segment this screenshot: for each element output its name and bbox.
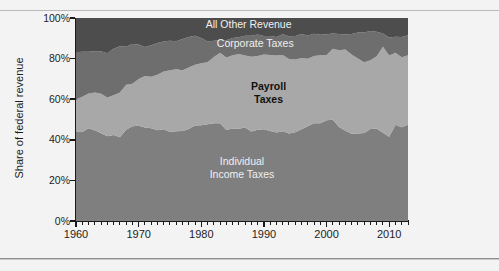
x-tick-major-1990 — [263, 221, 264, 227]
x-tick-minor-1997 — [307, 221, 308, 225]
x-tick-minor-2005 — [357, 221, 358, 225]
y-tick-label-80: 80% — [26, 53, 70, 64]
x-tick-minor-1979 — [195, 221, 196, 225]
x-tick-label-1960: 1960 — [64, 229, 88, 240]
x-tick-minor-2004 — [351, 221, 352, 225]
x-tick-minor-2012 — [401, 221, 402, 225]
figure-canvas: Share of federal revenue 0%20%40%60%80%1… — [0, 0, 499, 271]
x-tick-minor-1973 — [157, 221, 158, 225]
x-tick-minor-1981 — [207, 221, 208, 225]
x-tick-minor-1999 — [320, 221, 321, 225]
x-tick-minor-1995 — [295, 221, 296, 225]
x-tick-minor-1992 — [276, 221, 277, 225]
x-tick-minor-1977 — [182, 221, 183, 225]
x-tick-label-1970: 1970 — [126, 229, 150, 240]
y-tick-label-0: 0% — [26, 216, 70, 227]
x-tick-major-2010 — [389, 221, 390, 227]
x-tick-minor-1993 — [282, 221, 283, 225]
x-tick-minor-1984 — [226, 221, 227, 225]
area-series-group — [76, 18, 408, 221]
x-tick-major-1960 — [75, 221, 76, 227]
x-tick-minor-2006 — [364, 221, 365, 225]
x-tick-minor-1994 — [288, 221, 289, 225]
x-tick-minor-2008 — [376, 221, 377, 225]
x-tick-minor-1961 — [82, 221, 83, 225]
x-tick-minor-1988 — [251, 221, 252, 225]
x-tick-minor-1967 — [119, 221, 120, 225]
x-tick-label-1990: 1990 — [252, 229, 276, 240]
x-tick-minor-2009 — [382, 221, 383, 225]
x-tick-label-1980: 1980 — [189, 229, 213, 240]
x-tick-minor-1974 — [163, 221, 164, 225]
x-tick-minor-1972 — [151, 221, 152, 225]
x-tick-minor-1985 — [232, 221, 233, 225]
x-tick-minor-2003 — [345, 221, 346, 225]
x-tick-minor-1975 — [169, 221, 170, 225]
x-tick-minor-1996 — [301, 221, 302, 225]
y-tick-label-60: 60% — [26, 94, 70, 105]
stacked-area-plot — [76, 18, 408, 221]
x-tick-minor-1991 — [270, 221, 271, 225]
x-tick-minor-2002 — [339, 221, 340, 225]
x-tick-minor-1962 — [88, 221, 89, 225]
figure-bottom-rule-shadow — [0, 259, 499, 260]
x-tick-minor-1986 — [238, 221, 239, 225]
x-tick-minor-1964 — [101, 221, 102, 225]
x-tick-minor-2013 — [408, 221, 409, 225]
x-tick-minor-1966 — [113, 221, 114, 225]
figure-top-rule — [0, 10, 499, 11]
x-tick-minor-1968 — [126, 221, 127, 225]
x-tick-major-1980 — [201, 221, 202, 227]
x-tick-minor-1971 — [144, 221, 145, 225]
x-tick-minor-1976 — [176, 221, 177, 225]
x-tick-major-1970 — [138, 221, 139, 227]
x-tick-minor-1989 — [257, 221, 258, 225]
area-series-individual-income-taxes — [76, 120, 408, 221]
y-tick-label-40: 40% — [26, 134, 70, 145]
x-tick-minor-1983 — [220, 221, 221, 225]
x-tick-minor-1978 — [188, 221, 189, 225]
x-tick-minor-1982 — [213, 221, 214, 225]
y-axis-title: Share of federal revenue — [13, 16, 25, 221]
x-tick-major-2000 — [326, 221, 327, 227]
x-tick-minor-2007 — [370, 221, 371, 225]
x-tick-minor-1969 — [132, 221, 133, 225]
x-tick-minor-1998 — [314, 221, 315, 225]
y-tick-label-20: 20% — [26, 175, 70, 186]
x-tick-minor-1963 — [94, 221, 95, 225]
x-tick-minor-2011 — [395, 221, 396, 225]
x-tick-minor-1987 — [245, 221, 246, 225]
x-tick-label-2000: 2000 — [314, 229, 338, 240]
y-tick-label-100: 100% — [26, 13, 70, 24]
x-tick-label-2010: 2010 — [377, 229, 401, 240]
x-tick-minor-2001 — [332, 221, 333, 225]
x-tick-minor-1965 — [107, 221, 108, 225]
